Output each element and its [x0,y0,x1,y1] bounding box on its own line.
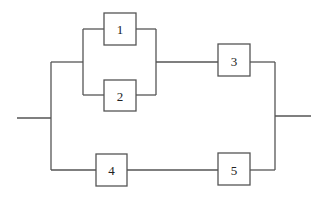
block-3-label: 3 [231,54,238,69]
block-2-label: 2 [117,89,124,104]
reliability-block-diagram: 1 2 3 4 5 [0,0,325,197]
block-4: 4 [96,154,127,186]
block-3: 3 [218,44,250,76]
block-2: 2 [104,80,136,111]
block-1: 1 [104,13,136,45]
block-5: 5 [218,153,250,185]
block-4-label: 4 [108,163,115,178]
block-1-label: 1 [117,22,124,37]
block-5-label: 5 [231,163,238,178]
